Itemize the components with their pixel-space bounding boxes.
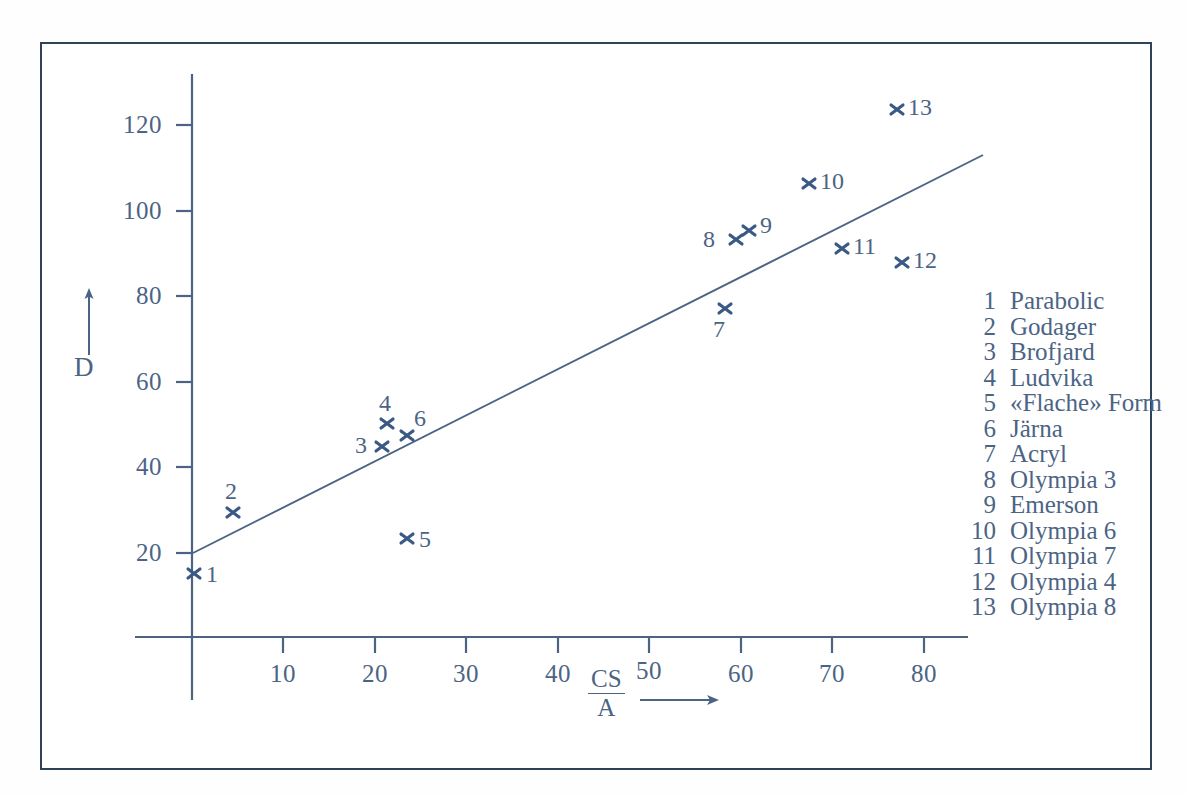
legend-item-8: 8 Olympia 3 <box>962 467 1162 493</box>
legend-item-2: 2 Godager <box>962 314 1162 340</box>
x-tick-label-40: 40 <box>528 660 588 688</box>
legend-item-7: 7 Acryl <box>962 441 1162 467</box>
legend-number: 11 <box>962 543 996 569</box>
marker-point-11 <box>836 244 848 253</box>
marker-point-6 <box>401 431 413 440</box>
marker-point-10 <box>803 179 815 188</box>
marker-point-9 <box>743 226 755 235</box>
legend-label: Brofjard <box>1010 339 1095 365</box>
legend-item-4: 4 Ludvika <box>962 365 1162 391</box>
legend-number: 2 <box>962 314 996 340</box>
x-axis-title: CS A <box>588 666 625 722</box>
point-label-5: 5 <box>419 526 431 553</box>
legend-item-3: 3 Brofjard <box>962 339 1162 365</box>
marker-point-12 <box>896 258 908 267</box>
legend-number: 8 <box>962 467 996 493</box>
y-axis-title: D <box>74 352 94 383</box>
point-label-9: 9 <box>760 212 772 239</box>
point-label-1: 1 <box>206 561 218 588</box>
x-tick-label-50: 50 <box>619 657 679 685</box>
y-tick-label-60: 60 <box>100 368 162 396</box>
marker-point-2 <box>227 508 239 517</box>
legend-label: Ludvika <box>1010 365 1093 391</box>
legend-item-9: 9 Emerson <box>962 492 1162 518</box>
marker-point-13 <box>891 105 903 114</box>
point-label-7: 7 <box>713 316 725 343</box>
x-axis-title-numerator: CS <box>588 666 625 694</box>
legend-number: 5 <box>962 390 996 416</box>
legend-number: 7 <box>962 441 996 467</box>
legend-number: 12 <box>962 569 996 595</box>
point-label-4: 4 <box>379 390 391 417</box>
legend-number: 10 <box>962 518 996 544</box>
legend-label: Järna <box>1010 416 1063 442</box>
legend-label: «Flache» Form <box>1010 390 1162 416</box>
x-tick-label-60: 60 <box>711 660 771 688</box>
x-tick-label-30: 30 <box>436 660 496 688</box>
data-point-markers <box>188 105 908 578</box>
legend-number: 1 <box>962 288 996 314</box>
x-axis-arrow-icon <box>640 695 719 705</box>
y-tick-label-80: 80 <box>100 282 162 310</box>
x-axis-title-denominator: A <box>588 694 625 721</box>
legend-label: Olympia 8 <box>1010 594 1116 620</box>
legend-item-10: 10 Olympia 6 <box>962 518 1162 544</box>
legend-item-1: 1 Parabolic <box>962 288 1162 314</box>
y-tick-label-100: 100 <box>100 197 162 225</box>
y-tick-label-120: 120 <box>100 111 162 139</box>
legend-number: 13 <box>962 594 996 620</box>
point-label-8: 8 <box>703 226 715 253</box>
legend-number: 4 <box>962 365 996 391</box>
legend-label: Olympia 3 <box>1010 467 1116 493</box>
x-tick-label-10: 10 <box>253 660 313 688</box>
marker-point-4 <box>381 419 393 428</box>
point-label-3: 3 <box>355 432 367 459</box>
legend: 1 Parabolic 2 Godager 3 Brofjard 4 Ludvi… <box>962 288 1162 620</box>
y-tick-label-20: 20 <box>100 539 162 567</box>
legend-number: 6 <box>962 416 996 442</box>
point-label-6: 6 <box>414 405 426 432</box>
legend-label: Acryl <box>1010 441 1067 467</box>
marker-point-8 <box>730 235 742 244</box>
x-axis-ticks <box>283 637 924 653</box>
legend-number: 3 <box>962 339 996 365</box>
x-tick-label-20: 20 <box>345 660 405 688</box>
legend-label: Olympia 7 <box>1010 543 1116 569</box>
marker-point-7 <box>719 304 731 313</box>
point-label-10: 10 <box>820 168 844 195</box>
legend-label: Emerson <box>1010 492 1099 518</box>
legend-number: 9 <box>962 492 996 518</box>
marker-point-3 <box>376 442 388 451</box>
point-label-2: 2 <box>225 478 237 505</box>
legend-item-6: 6 Järna <box>962 416 1162 442</box>
y-axis-ticks <box>176 125 192 553</box>
legend-item-12: 12 Olympia 4 <box>962 569 1162 595</box>
y-tick-label-40: 40 <box>100 453 162 481</box>
point-label-11: 11 <box>853 233 876 260</box>
legend-item-13: 13 Olympia 8 <box>962 594 1162 620</box>
legend-item-11: 11 Olympia 7 <box>962 543 1162 569</box>
x-tick-label-70: 70 <box>802 660 862 688</box>
x-tick-label-80: 80 <box>894 660 954 688</box>
point-label-12: 12 <box>913 247 937 274</box>
legend-label: Parabolic <box>1010 288 1104 314</box>
legend-label: Olympia 4 <box>1010 569 1116 595</box>
legend-label: Olympia 6 <box>1010 518 1116 544</box>
marker-point-1 <box>188 569 200 578</box>
point-label-13: 13 <box>908 94 932 121</box>
legend-item-5: 5 «Flache» Form <box>962 390 1162 416</box>
trend-line <box>193 155 983 553</box>
y-axis-arrow-icon <box>85 288 94 355</box>
legend-label: Godager <box>1010 314 1096 340</box>
marker-point-5 <box>401 534 413 543</box>
figure-page: 20 40 60 80 100 120 10 20 30 40 50 60 70… <box>0 0 1188 795</box>
